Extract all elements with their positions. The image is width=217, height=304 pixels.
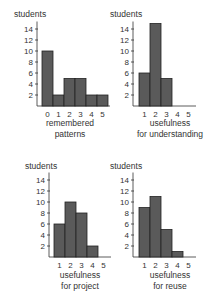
bar bbox=[139, 208, 150, 258]
x-tick-label: 1 bbox=[142, 261, 147, 270]
x-axis-label: usefulness for reuse bbox=[125, 270, 215, 292]
y-tick-label: 4 bbox=[125, 231, 130, 240]
bar bbox=[172, 252, 183, 258]
y-tick-label: 8 bbox=[125, 209, 130, 218]
bar bbox=[161, 230, 172, 258]
y-tick-label: 12 bbox=[120, 187, 129, 196]
x-tick-label: 4 bbox=[175, 261, 180, 270]
bar-plot: 246810121412345 bbox=[0, 0, 217, 304]
x-tick-label: 3 bbox=[164, 261, 169, 270]
y-tick-label: 14 bbox=[120, 176, 129, 185]
x-tick-label: 2 bbox=[153, 261, 158, 270]
bar bbox=[150, 197, 161, 258]
chart-usefulness-reuse: students 246810121412345 usefulness for … bbox=[0, 0, 217, 304]
y-tick-label: 2 bbox=[125, 242, 130, 251]
y-tick-label: 6 bbox=[125, 220, 130, 229]
y-tick-label: 10 bbox=[120, 198, 129, 207]
x-tick-label: 5 bbox=[186, 261, 191, 270]
